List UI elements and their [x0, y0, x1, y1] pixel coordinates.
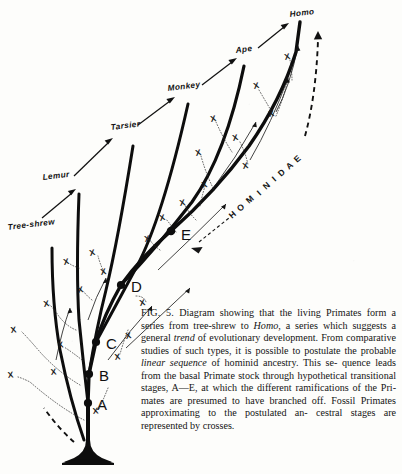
fossil-cross: X	[77, 284, 85, 295]
fossil-cross: X	[209, 113, 217, 124]
fossil-cross: X	[179, 197, 187, 208]
figure-page: H O M I N I D A E A B C D E X X X X X X	[0, 0, 402, 474]
branch-label-tarsier: Tarsier	[110, 119, 141, 132]
fossil-cross: X	[268, 108, 276, 119]
caption-fig-number: FIG. 5.	[141, 307, 174, 318]
caption-italic-homo: Homo	[254, 320, 279, 331]
node-label-C: C	[106, 335, 117, 352]
node-label-E: E	[181, 226, 191, 243]
hominid-dashed-arrowhead	[314, 31, 322, 40]
fossil-cross: X	[50, 366, 57, 377]
node-label-D: D	[131, 278, 142, 295]
fossil-cross: X	[100, 266, 108, 277]
node-dot-E	[167, 227, 176, 236]
clade-letter-M: M	[244, 193, 256, 206]
branch-label-homo: Homo	[289, 7, 315, 19]
fossil-cross: X	[283, 51, 291, 62]
hominidae-clade-label: H O M I N I D A E	[227, 153, 303, 221]
node-dot-B	[85, 370, 93, 378]
fossil-cross: X	[88, 247, 96, 258]
fossil-cross: X	[201, 179, 209, 190]
caption-text-7: types, it is possible to postulate the p…	[208, 345, 396, 356]
node-dot-A	[84, 399, 92, 407]
branch-label-tree-shrew: Tree-shrew	[7, 217, 56, 232]
fossil-cross: X	[114, 351, 121, 362]
node-label-B: B	[99, 367, 109, 384]
fossil-cross: X	[158, 212, 166, 223]
caption-italic-trend: trend	[174, 332, 195, 343]
branch-label-monkey: Monkey	[167, 80, 201, 93]
fossil-cross: X	[43, 298, 51, 309]
basal-dashed-tail	[44, 408, 74, 442]
caption-text-12: mates are presumed to have branched off.…	[141, 395, 355, 406]
caption-text-5: of evolutionary	[195, 332, 261, 343]
clade-letter-I: I	[255, 188, 264, 197]
fossil-cross: X	[57, 339, 64, 350]
fossil-cross: X	[10, 324, 17, 335]
fossil-cross: X	[252, 80, 260, 91]
fossil-cross: X	[7, 369, 14, 380]
clade-letter-O: O	[235, 201, 247, 213]
hominid-dashed-continuation	[305, 40, 318, 136]
clade-letter-D: D	[276, 167, 288, 179]
fossil-branch-6	[84, 292, 92, 300]
clade-letter-A: A	[284, 160, 296, 172]
clade-letter-I2: I	[270, 174, 279, 183]
fossil-branch-2	[22, 332, 80, 385]
figure-caption: FIG. 5. Diagram showing that the living …	[141, 307, 396, 432]
caption-text-11: at which the different ramifications of …	[201, 382, 396, 393]
branch-label-lemur: Lemur	[42, 170, 70, 182]
fossil-cross: X	[62, 256, 70, 267]
hominidae-pointer-line	[199, 218, 229, 242]
caption-text-8: of hominid ancestry. This se-	[207, 357, 338, 368]
fossil-cross: X	[194, 147, 202, 158]
hominidae-arrowhead	[191, 247, 203, 254]
fossil-branch-3	[64, 347, 82, 360]
fossil-cross: X	[242, 160, 250, 171]
node-dot-C	[92, 338, 100, 346]
caption-italic-linear-sequence: linear sequence	[141, 357, 207, 368]
clade-letter-N: N	[261, 180, 273, 192]
branch-label-ape: Ape	[234, 44, 253, 55]
fossil-cross: X	[125, 330, 133, 341]
clade-letter-E: E	[292, 153, 303, 165]
node-label-A: A	[97, 396, 107, 413]
fossil-cross: X	[231, 132, 239, 143]
node-dot-D	[117, 281, 125, 289]
caption-text-1: Diagram showing that the living Primates	[179, 307, 361, 318]
caption-text-3: , a series	[278, 320, 318, 331]
